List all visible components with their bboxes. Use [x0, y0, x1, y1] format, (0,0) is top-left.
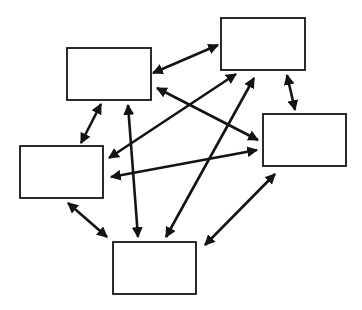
- arrow-a-d: [81, 104, 101, 143]
- arrow-b-a: [153, 45, 218, 73]
- node-box-a: [67, 48, 151, 100]
- arrow-c-e: [205, 174, 275, 245]
- network-diagram: [0, 0, 362, 310]
- arrow-b-c: [287, 75, 295, 110]
- node-box-b: [221, 18, 305, 70]
- arrow-d-e: [68, 203, 107, 237]
- node-box-d: [20, 146, 103, 198]
- node-box-e: [113, 242, 196, 294]
- node-box-c: [263, 114, 346, 166]
